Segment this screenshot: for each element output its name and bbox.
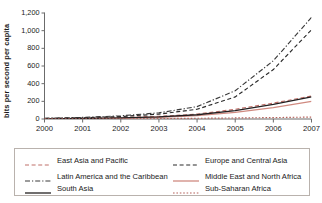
x-tick-label: 2006 [253,124,293,133]
y-tick-label: 1,200 [21,8,39,17]
chart-legend: East Asia and PacificLatin America and t… [14,148,310,196]
y-tick-label: 200 [27,96,39,105]
x-tick-label: 2002 [101,124,141,133]
legend-item-label: East Asia and Pacific [57,156,128,166]
x-tick-label: 2001 [63,124,103,133]
legend-item-label: Sub-Saharan Africa [205,184,271,194]
legend-swatch-icon [25,172,51,182]
legend-item-label: Europe and Central Asia [205,156,287,166]
x-tick-label: 2000 [25,124,65,133]
x-tick-label: 2007 [292,124,322,133]
legend-item[interactable]: Europe and Central Asia [173,154,287,168]
chart-container: bits per second per capita 0200400600800… [0,0,322,203]
y-tick-label: 0 [35,114,39,123]
legend-item[interactable]: East Asia and Pacific [25,154,128,168]
x-tick-label: 2004 [177,124,217,133]
legend-item-label: Middle East and North Africa [205,172,301,182]
legend-item[interactable]: Sub-Saharan Africa [173,182,271,196]
legend-item-label: South Asia [57,184,93,194]
legend-swatch-icon [173,172,199,182]
y-tick-label: 1,000 [21,26,39,35]
legend-swatch-icon [173,156,199,166]
legend-item-label: Latin America and the Caribbean [57,172,168,182]
legend-swatch-icon [25,184,51,194]
x-tick-label: 2005 [215,124,255,133]
y-tick-label: 600 [27,61,39,70]
legend-swatch-icon [25,156,51,166]
y-tick-label: 400 [27,79,39,88]
legend-item[interactable]: South Asia [25,182,93,196]
legend-swatch-icon [173,184,199,194]
x-tick-label: 2003 [139,124,179,133]
y-tick-label: 800 [27,43,39,52]
